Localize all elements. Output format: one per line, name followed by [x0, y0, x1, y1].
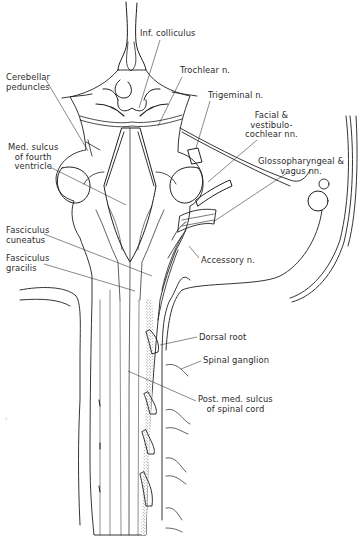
- label-fasciculus-gracilis: Fasciculus gracilis: [6, 254, 49, 273]
- dural-sheath: [20, 116, 357, 532]
- stray-mark: ,: [5, 412, 8, 422]
- leader-line-glossopharyngeal-vagus-nn: [213, 173, 287, 222]
- label-inf-colliculus: Inf. colliculus: [140, 29, 196, 39]
- brainstem-dorsal-view-figure: Inf. colliculus Trochlear n. Cerebellar …: [0, 0, 360, 542]
- leader-line-facial-vestibulocochlear-nn: [208, 140, 257, 182]
- leader-line-fasciculus-gracilis: [44, 264, 135, 291]
- label-med-sulcus-fourth-ventricle: Med. sulcus of fourth ventricle: [8, 143, 58, 172]
- leader-line-dorsal-root: [160, 337, 197, 345]
- leader-line-cerebellar-peduncles: [46, 80, 88, 151]
- label-accessory-n: Accessory n.: [201, 256, 255, 266]
- leader-line-fasciculus-cuneatus: [44, 234, 152, 276]
- label-facial-vestibulocochlear-nn: Facial & vestibulo- cochlear nn.: [245, 111, 298, 140]
- label-cerebellar-peduncles: Cerebellar peduncles: [6, 73, 50, 92]
- label-post-med-sulcus-spinal-cord: Post. med. sulcus of spinal cord: [198, 395, 273, 414]
- label-trochlear-n: Trochlear n.: [180, 66, 230, 76]
- brainstem-body: [56, 70, 203, 535]
- leader-line-accessory-n: [189, 246, 199, 258]
- anatomy-drawing: [0, 0, 360, 542]
- label-spinal-ganglion: Spinal ganglion: [203, 356, 269, 366]
- label-fasciculus-cuneatus: Fasciculus cuneatus: [6, 226, 49, 245]
- leader-line-med-sulcus-fourth-ventricle: [50, 167, 126, 205]
- cranial-nerve-roots: [158, 148, 232, 320]
- leader-line-inf-colliculus: [139, 40, 160, 108]
- leader-line-trigeminal-n: [196, 101, 210, 148]
- label-dorsal-root: Dorsal root: [199, 333, 246, 343]
- label-glossopharyngeal-vagus-nn: Glossopharyngeal & vagus nn.: [258, 157, 344, 176]
- label-trigeminal-n: Trigeminal n.: [208, 91, 263, 101]
- leader-line-spinal-ganglion: [181, 361, 201, 369]
